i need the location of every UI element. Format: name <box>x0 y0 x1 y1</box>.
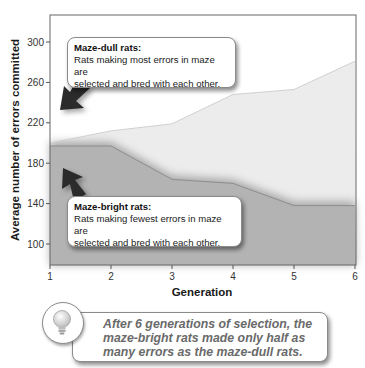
x-tick-label: 1 <box>47 271 53 282</box>
conclusion-box: After 6 generations of selection, the ma… <box>72 312 328 362</box>
x-axis-title: Generation <box>172 286 233 298</box>
maze-bright-callout-line-2: selected and bred with each other. <box>74 237 235 249</box>
conclusion-line-2: maze-bright rats made only half as <box>103 331 321 345</box>
y-tick-label: 300 <box>27 37 44 48</box>
y-tick-label: 260 <box>27 77 44 88</box>
lightbulb-icon <box>43 303 83 343</box>
conclusion-line-3: many errors as the maze-dull rats. <box>103 345 321 359</box>
lightbulb-badge <box>42 302 84 344</box>
maze-dull-callout-line-1: Rats making most errors in maze are <box>74 54 229 78</box>
y-tick-label: 220 <box>27 117 44 128</box>
x-axis: 123456 <box>47 265 358 282</box>
maze-bright-callout: Maze-bright rats: Rats making fewest err… <box>67 196 242 247</box>
y-axis-title: Average number of errors committed <box>9 39 21 241</box>
y-axis: 100140180220260300 <box>27 37 50 250</box>
maze-bright-callout-line-1: Rats making fewest errors in maze are <box>74 213 235 237</box>
x-tick-label: 4 <box>230 271 236 282</box>
conclusion-line-1: After 6 generations of selection, the <box>103 317 321 331</box>
maze-bright-callout-title: Maze-bright rats: <box>74 201 235 213</box>
x-tick-label: 2 <box>108 271 114 282</box>
y-tick-label: 140 <box>27 198 44 209</box>
maze-dull-callout: Maze-dull rats: Rats making most errors … <box>67 37 236 88</box>
x-tick-label: 6 <box>352 271 358 282</box>
x-tick-label: 3 <box>169 271 175 282</box>
y-tick-label: 180 <box>27 158 44 169</box>
maze-dull-callout-title: Maze-dull rats: <box>74 42 229 54</box>
maze-dull-callout-line-2: selected and bred with each other. <box>74 78 229 90</box>
x-tick-label: 5 <box>291 271 297 282</box>
y-tick-label: 100 <box>27 239 44 250</box>
